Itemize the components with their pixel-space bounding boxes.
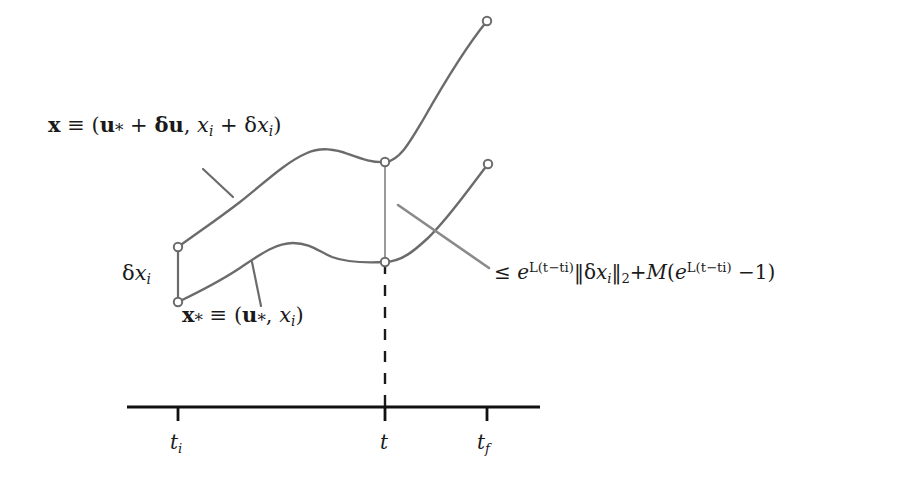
marker-perturbed-end xyxy=(483,17,491,25)
nominal-label-leader-line xyxy=(252,262,261,306)
nominal-lhs: x xyxy=(182,302,195,327)
tick-t-base: t xyxy=(380,430,388,454)
axis-tick-label-t: t xyxy=(380,432,388,452)
perturbed-delta: δ xyxy=(244,113,257,137)
deviation-x-subscript: i xyxy=(147,271,151,287)
bound-exp-base-2: e xyxy=(675,260,687,284)
bound-norm-open: ‖ xyxy=(574,260,584,284)
perturbed-equiv: ≡ xyxy=(67,113,85,137)
bound-delta: δ xyxy=(584,260,596,284)
marker-perturbed-start xyxy=(174,243,182,251)
perturbed-x-subscript: i xyxy=(209,123,213,139)
nominal-trajectory-curve xyxy=(178,164,488,302)
axis-tick-label-ti: ti xyxy=(170,432,182,455)
perturbed-label-leader-line xyxy=(203,169,233,197)
bound-one: 1 xyxy=(755,260,768,284)
marker-nominal-start xyxy=(174,298,182,306)
bound-label-leader-line xyxy=(398,205,489,268)
marker-nominal-end xyxy=(484,160,492,168)
perturbed-plus-2: + xyxy=(220,113,238,137)
bound-open-paren: ( xyxy=(667,260,675,284)
marker-nominal-at-t xyxy=(381,258,389,266)
perturbed-comma: , xyxy=(184,113,191,137)
bound-x: x xyxy=(596,260,607,284)
label-growth-bound: ≤ eL(t−ti)‖δxi‖2+M(eL(t−ti) −1) xyxy=(494,261,775,285)
tick-ti-base: t xyxy=(170,430,178,454)
nominal-u: u xyxy=(242,302,257,327)
bound-exponent-2: L(t−ti) xyxy=(687,260,732,275)
perturbed-close-paren: ) xyxy=(273,113,281,137)
deviation-delta: δ xyxy=(122,261,135,285)
deviation-x: x xyxy=(135,261,147,285)
bound-minus: − xyxy=(738,260,755,284)
bound-norm-subscript: 2 xyxy=(621,271,629,286)
perturbed-u-subscript: * xyxy=(115,120,123,140)
nominal-open-paren: ( xyxy=(234,303,242,327)
tick-ti-subscript: i xyxy=(178,441,182,456)
perturbed-x2: x xyxy=(257,113,269,137)
tick-tf-subscript: f xyxy=(485,441,490,456)
trajectory-figure xyxy=(0,0,905,489)
marker-perturbed-at-t xyxy=(381,158,389,166)
nominal-comma: , xyxy=(266,303,273,327)
perturbed-lhs: x xyxy=(48,112,61,137)
nominal-x: x xyxy=(279,303,291,327)
nominal-lhs-subscript: * xyxy=(195,310,203,330)
bound-exponent-1: L(t−ti) xyxy=(529,260,574,275)
axis-tick-label-tf: tf xyxy=(477,432,490,455)
bound-exp-base-1: e xyxy=(517,260,529,284)
perturbed-open-paren: ( xyxy=(92,113,100,137)
perturbed-x: x xyxy=(197,113,209,137)
bound-leq: ≤ xyxy=(494,260,511,284)
bound-norm-close: ‖ xyxy=(611,260,621,284)
tick-tf-base: t xyxy=(477,430,485,454)
perturbed-u: u xyxy=(100,112,115,137)
bound-plus: + xyxy=(630,260,647,284)
bound-close-paren: ) xyxy=(768,260,776,284)
label-perturbed-trajectory: x ≡ (u* + δu, xi + δxi) xyxy=(48,114,281,139)
perturbed-delta-u: δu xyxy=(154,112,183,137)
label-initial-deviation: δxi xyxy=(122,263,151,287)
nominal-u-subscript: * xyxy=(257,310,265,330)
bound-M: M xyxy=(647,260,667,284)
nominal-equiv: ≡ xyxy=(210,303,228,327)
perturbed-plus-1: + xyxy=(130,113,148,137)
label-nominal-trajectory: x* ≡ (u*, xi) xyxy=(182,304,304,329)
nominal-close-paren: ) xyxy=(295,303,303,327)
